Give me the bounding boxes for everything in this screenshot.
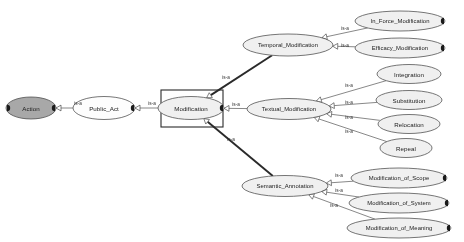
node-public_act[interactable]: Public_Act xyxy=(73,97,135,120)
node-label-modification_of_system: Modification_of_System xyxy=(367,200,431,206)
node-temporal_modification[interactable]: Temporal_Modification xyxy=(243,34,333,56)
node-label-substitution: Substitution xyxy=(393,97,426,104)
edge-label-repeal-to-textual_modification: is-a xyxy=(345,129,353,134)
edge-label-public_act-to-action: is-a xyxy=(74,101,82,106)
node-label-in_force_modification: In_Force_Modification xyxy=(370,18,429,24)
edge-integration-to-textual_modification[interactable] xyxy=(321,81,386,100)
edge-label-substitution-to-textual_modification: is-a xyxy=(345,100,353,105)
node-label-action: Action xyxy=(22,105,40,112)
edge-label-semantic_annotation-to-modification: is-a xyxy=(227,137,235,142)
edge-semantic_annotation-to-modification[interactable] xyxy=(208,122,273,176)
diagram-canvas[interactable]: ActionPublic_ActModificationTemporal_Mod… xyxy=(0,0,464,242)
edge-temporal_modification-to-modification[interactable] xyxy=(211,55,272,95)
node-label-relocation: Relocation xyxy=(394,121,424,128)
edge-substitution-to-textual_modification[interactable] xyxy=(334,102,377,105)
node-relocation[interactable]: Relocation xyxy=(378,115,440,134)
node-integration[interactable]: Integration xyxy=(377,65,441,84)
edge-label-efficacy_modification-to-temporal_modification: is-a xyxy=(341,43,349,48)
node-label-public_act: Public_Act xyxy=(89,105,119,112)
node-label-textual_modification: Textual_Modification xyxy=(262,106,316,112)
node-semantic_annotation[interactable]: Semantic_Annotation xyxy=(242,176,328,197)
edge-modification_of_system-to-semantic_annotation[interactable] xyxy=(327,192,359,197)
node-modification_of_scope[interactable]: Modification_of_Scope xyxy=(351,168,447,188)
node-action[interactable]: Action xyxy=(6,97,56,119)
node-label-integration: Integration xyxy=(394,71,424,78)
node-label-modification: Modification xyxy=(174,105,208,112)
edge-label-relocation-to-textual_modification: is-a xyxy=(345,115,353,120)
nodes-layer: ActionPublic_ActModificationTemporal_Mod… xyxy=(6,11,451,238)
edge-label-modification-to-public_act: is-a xyxy=(148,101,156,106)
node-label-modification_of_scope: Modification_of_Scope xyxy=(369,175,430,181)
graph-svg[interactable]: ActionPublic_ActModificationTemporal_Mod… xyxy=(0,0,464,242)
isa-arrowhead-textual_modification xyxy=(224,105,229,111)
edge-label-in_force_modification-to-temporal_modification: is-a xyxy=(341,26,349,31)
isa-arrowhead-efficacy_modification xyxy=(333,43,338,49)
node-textual_modification[interactable]: Textual_Modification xyxy=(247,99,331,120)
isa-arrowhead-modification xyxy=(135,105,140,111)
node-label-efficacy_modification: Efficacy_Modification xyxy=(372,45,428,51)
node-modification_of_meaning[interactable]: Modification_of_Meaning xyxy=(347,218,451,238)
node-label-repeal: Repeal xyxy=(396,145,416,152)
edge-modification_of_scope-to-semantic_annotation[interactable] xyxy=(331,181,353,183)
edge-repeal-to-textual_modification[interactable] xyxy=(319,119,387,142)
edge-label-temporal_modification-to-modification: is-a xyxy=(222,75,230,80)
node-modification_of_system[interactable]: Modification_of_System xyxy=(349,193,449,213)
edge-relocation-to-textual_modification[interactable] xyxy=(332,114,381,120)
node-label-temporal_modification: Temporal_Modification xyxy=(258,42,318,48)
node-efficacy_modification[interactable]: Efficacy_Modification xyxy=(355,38,445,58)
node-label-semantic_annotation: Semantic_Annotation xyxy=(257,183,314,189)
node-in_force_modification[interactable]: In_Force_Modification xyxy=(355,11,445,31)
node-modification[interactable]: Modification xyxy=(158,97,224,120)
node-substitution[interactable]: Substitution xyxy=(376,91,442,110)
edge-label-textual_modification-to-modification: is-a xyxy=(232,102,240,107)
edge-label-modification_of_scope-to-semantic_annotation: is-a xyxy=(335,173,343,178)
edge-label-modification_of_meaning-to-semantic_annotation: is-a xyxy=(330,203,338,208)
node-label-modification_of_meaning: Modification_of_Meaning xyxy=(366,225,433,231)
node-repeal[interactable]: Repeal xyxy=(380,139,432,158)
edge-label-modification_of_system-to-semantic_annotation: is-a xyxy=(335,188,343,193)
isa-arrowhead-public_act xyxy=(56,105,61,111)
edge-label-integration-to-textual_modification: is-a xyxy=(345,83,353,88)
